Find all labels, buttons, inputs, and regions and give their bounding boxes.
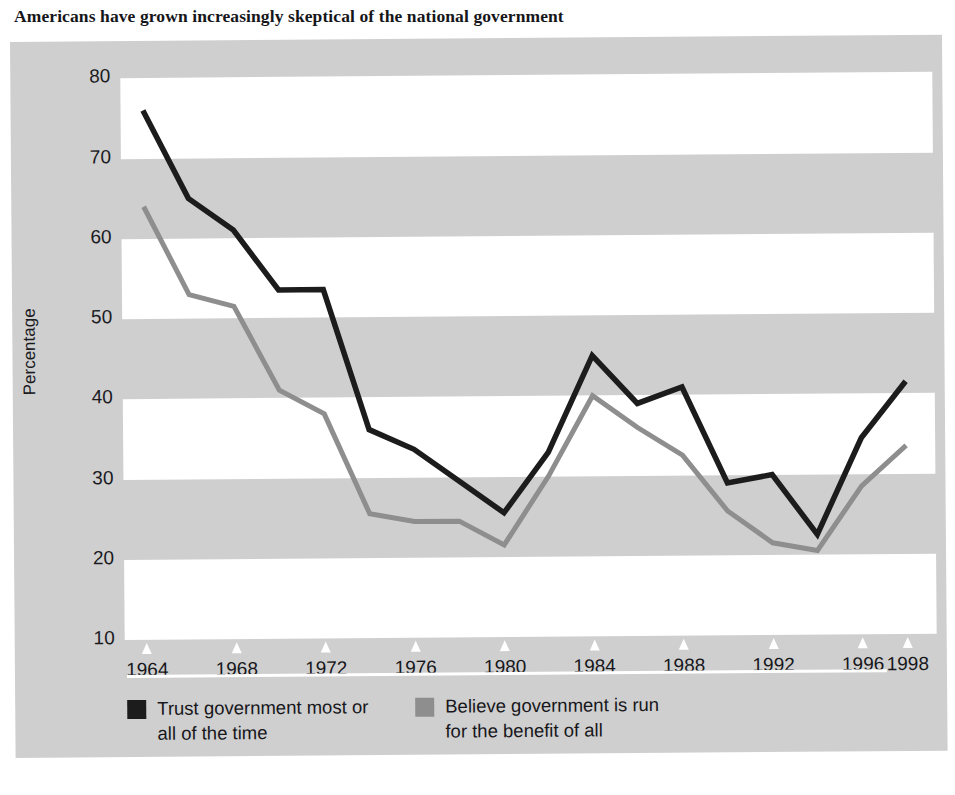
y-tick-label: 50 <box>38 306 112 329</box>
y-tick-label: 10 <box>41 627 115 650</box>
x-tick-marker <box>589 639 599 650</box>
x-tick-marker <box>903 637 913 648</box>
x-tick-marker <box>142 643 152 654</box>
y-tick-label: 40 <box>39 387 113 410</box>
series-lines <box>120 62 936 640</box>
chart-panel-inner: 8070605040302010 Percentage 196419681972… <box>10 35 948 758</box>
x-tick-marker <box>858 637 868 648</box>
legend-label-line1: Trust government most or <box>157 694 368 721</box>
x-tick-marker <box>500 640 510 651</box>
chart-panel: 8070605040302010 Percentage 196419681972… <box>10 35 948 758</box>
y-tick-label: 20 <box>40 547 114 570</box>
y-axis-ticks: 8070605040302010 <box>10 35 942 42</box>
x-tick-marker <box>321 641 331 652</box>
scan-edge <box>0 758 955 795</box>
y-tick-label: 30 <box>39 467 113 490</box>
legend-label-line2: all of the time <box>157 720 267 746</box>
legend-label-line1: Believe government is run <box>445 692 659 719</box>
x-tick-marker <box>768 638 778 649</box>
y-tick-label: 80 <box>36 66 110 89</box>
legend-label-line2: for the benefit of all <box>445 717 603 743</box>
x-tick-marker <box>411 641 421 652</box>
y-axis-label: Percentage <box>20 308 41 395</box>
x-tick-marker <box>232 642 242 653</box>
page-title: Americans have grown increasingly skepti… <box>14 6 914 27</box>
figure: Americans have grown increasingly skepti… <box>0 0 955 795</box>
y-tick-label: 60 <box>37 226 111 249</box>
series-line-trust <box>143 105 907 540</box>
chart-legend: Trust government most orall of the timeB… <box>10 35 942 42</box>
y-tick-label: 70 <box>37 146 111 169</box>
legend-swatch <box>415 698 434 717</box>
x-tick-marker <box>679 639 689 650</box>
x-axis-ticks: 1964196819721976198019841988199219961998 <box>10 35 942 42</box>
legend-swatch <box>127 700 146 719</box>
plot-area <box>120 62 936 640</box>
